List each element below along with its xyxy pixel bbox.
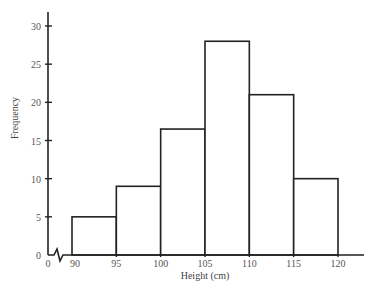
histogram-bar (161, 129, 205, 255)
y-tick-label: 20 (31, 97, 41, 108)
histogram-bar (205, 41, 249, 255)
y-axis-title: Frequency (9, 97, 20, 139)
histogram-bar (249, 95, 293, 255)
x-tick-label: 115 (286, 258, 301, 269)
x-tick-label: 100 (153, 258, 168, 269)
x-tick-label: 110 (242, 258, 257, 269)
y-tick-label: 15 (31, 136, 41, 147)
y-tick-label: 5 (36, 212, 41, 223)
histogram-bar (294, 179, 338, 255)
x-tick-label: 95 (111, 258, 121, 269)
x-axis-title: Height (cm) (181, 270, 230, 282)
histogram-chart: 051015202530 09095100105110115120 Height… (0, 0, 376, 293)
x-tick-label: 120 (331, 258, 346, 269)
y-tick-label: 25 (31, 59, 41, 70)
y-tick-label: 10 (31, 174, 41, 185)
histogram-bars (72, 41, 338, 255)
y-axis: 051015202530 (31, 12, 52, 261)
y-tick-label: 30 (31, 21, 41, 32)
y-tick-label: 0 (36, 250, 41, 261)
histogram-bar (116, 186, 160, 255)
x-tick-label: 105 (198, 258, 213, 269)
histogram-bar (72, 217, 116, 255)
x-tick-label: 0 (46, 258, 51, 269)
x-tick-label: 90 (70, 258, 80, 269)
